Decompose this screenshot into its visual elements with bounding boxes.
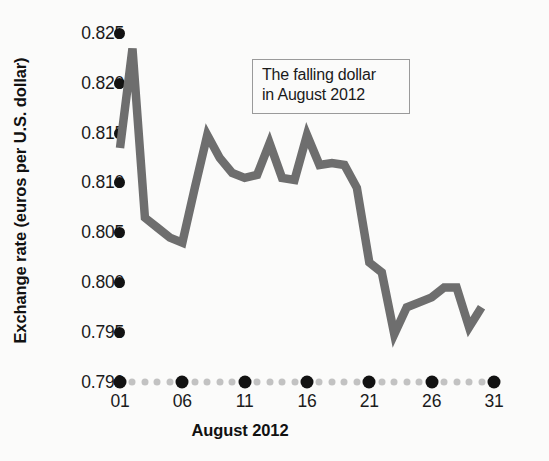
x-tick-dot-minor	[204, 379, 211, 386]
x-tick-dot-major	[176, 376, 189, 389]
x-tick-dot-major	[363, 376, 376, 389]
x-tick-dot-minor	[266, 379, 273, 386]
x-tick-dot-minor	[378, 379, 385, 386]
x-tick-dot-minor	[141, 379, 148, 386]
x-tick-dot-minor	[341, 379, 348, 386]
x-tick-dot-minor	[391, 379, 398, 386]
x-tick-dot-minor	[191, 379, 198, 386]
annotation-line-2: in August 2012	[262, 85, 400, 105]
x-tick-dot-minor	[416, 379, 423, 386]
x-tick-label-16: 16	[277, 391, 337, 412]
x-axis-title: August 2012	[120, 421, 360, 440]
x-tick-dot-minor	[166, 379, 173, 386]
x-tick-dot-minor	[353, 379, 360, 386]
x-tick-dot-major	[301, 376, 314, 389]
x-tick-dot-minor	[229, 379, 236, 386]
x-tick-dot-minor	[216, 379, 223, 386]
x-tick-dot-minor	[403, 379, 410, 386]
x-tick-dot-minor	[478, 379, 485, 386]
annotation-callout: The falling dollar in August 2012	[252, 59, 410, 114]
x-tick-label-06: 06	[152, 391, 212, 412]
x-tick-dot-major	[425, 376, 438, 389]
x-tick-dot-minor	[129, 379, 136, 386]
x-tick-dot-major	[488, 376, 501, 389]
x-tick-dot-minor	[154, 379, 161, 386]
x-tick-dot-major	[114, 376, 127, 389]
x-tick-dot-minor	[316, 379, 323, 386]
x-tick-dot-major	[238, 376, 251, 389]
x-tick-dot-minor	[328, 379, 335, 386]
x-tick-dot-minor	[441, 379, 448, 386]
x-tick-label-26: 26	[402, 391, 462, 412]
x-tick-label-21: 21	[339, 391, 399, 412]
x-tick-label-31: 31	[464, 391, 524, 412]
exchange-rate-line-chart: Exchange rate (euros per U.S. dollar) 0.…	[0, 0, 549, 461]
annotation-line-1: The falling dollar	[262, 65, 400, 85]
x-tick-label-11: 11	[215, 391, 275, 412]
x-tick-label-01: 01	[90, 391, 150, 412]
x-tick-dot-minor	[291, 379, 298, 386]
x-tick-dot-minor	[453, 379, 460, 386]
x-tick-dot-minor	[254, 379, 261, 386]
x-tick-dot-minor	[466, 379, 473, 386]
x-tick-dot-minor	[279, 379, 286, 386]
